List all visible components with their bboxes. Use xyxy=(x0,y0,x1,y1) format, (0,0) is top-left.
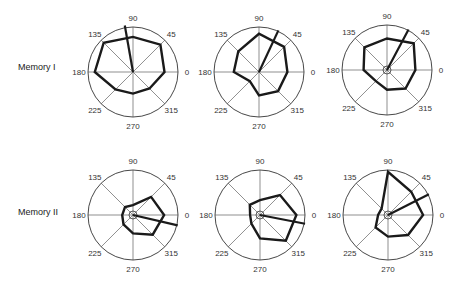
axis-label-315: 315 xyxy=(292,249,306,258)
tuning-polygon xyxy=(234,34,288,96)
polar-plots: 0459013518022527031504590135180225270315… xyxy=(0,0,456,284)
tuning-polygon xyxy=(376,172,424,237)
population-vector xyxy=(387,29,409,70)
axis-label-270: 270 xyxy=(253,265,267,274)
axis-label-90: 90 xyxy=(255,14,264,23)
axis-label-315: 315 xyxy=(165,106,179,115)
axis-label-225: 225 xyxy=(343,249,357,258)
axis-label-270: 270 xyxy=(380,120,394,129)
polar-plot-2: 04590135180225270315 xyxy=(198,14,315,131)
polar-plot-6: 04590135180225270315 xyxy=(327,157,444,274)
axis-label-45: 45 xyxy=(167,30,176,39)
axis-label-180: 180 xyxy=(198,68,212,77)
axis-label-315: 315 xyxy=(165,249,179,258)
axis-label-180: 180 xyxy=(327,211,341,220)
axis-label-90: 90 xyxy=(129,157,138,166)
axis-label-0: 0 xyxy=(185,68,190,77)
axis-label-0: 0 xyxy=(311,68,316,77)
axis-label-0: 0 xyxy=(312,211,317,220)
axis-label-135: 135 xyxy=(343,173,357,182)
polar-plot-3: 04590135180225270315 xyxy=(326,12,443,129)
axis-label-315: 315 xyxy=(419,104,433,113)
axis-label-180: 180 xyxy=(326,66,340,75)
axis-label-90: 90 xyxy=(256,157,265,166)
axis-label-45: 45 xyxy=(294,173,303,182)
tuning-polygon xyxy=(122,197,164,235)
axis-label-45: 45 xyxy=(422,173,431,182)
polar-plot-1: 04590135180225270315 xyxy=(72,14,189,131)
axis-label-135: 135 xyxy=(215,173,229,182)
axis-label-225: 225 xyxy=(342,104,356,113)
tuning-polygon xyxy=(95,37,165,94)
axis-label-0: 0 xyxy=(185,211,190,220)
axis-label-315: 315 xyxy=(420,249,434,258)
axis-label-180: 180 xyxy=(199,211,213,220)
axis-label-0: 0 xyxy=(440,211,445,220)
polar-figure: Memory I Memory II 045901351802252703150… xyxy=(0,0,456,284)
axis-label-45: 45 xyxy=(167,173,176,182)
axis-label-90: 90 xyxy=(384,157,393,166)
axis-label-270: 270 xyxy=(126,122,140,131)
axis-label-225: 225 xyxy=(214,106,228,115)
population-vector xyxy=(133,215,178,225)
axis-label-225: 225 xyxy=(215,249,229,258)
axis-label-180: 180 xyxy=(72,211,86,220)
axis-label-45: 45 xyxy=(421,28,430,37)
axis-label-90: 90 xyxy=(129,14,138,23)
axis-label-135: 135 xyxy=(214,30,228,39)
axis-label-135: 135 xyxy=(88,30,102,39)
axis-label-270: 270 xyxy=(381,265,395,274)
axis-label-0: 0 xyxy=(439,66,444,75)
axis-label-180: 180 xyxy=(72,68,86,77)
population-vector xyxy=(260,215,305,224)
axis-label-135: 135 xyxy=(342,28,356,37)
axis-label-135: 135 xyxy=(88,173,102,182)
axis-label-90: 90 xyxy=(383,12,392,21)
axis-label-315: 315 xyxy=(291,106,305,115)
axis-label-225: 225 xyxy=(88,106,102,115)
axis-label-270: 270 xyxy=(126,265,140,274)
polar-plot-5: 04590135180225270315 xyxy=(199,157,316,274)
axis-label-270: 270 xyxy=(252,122,266,131)
axis-label-45: 45 xyxy=(293,30,302,39)
polar-plot-4: 04590135180225270315 xyxy=(72,157,189,274)
axis-label-225: 225 xyxy=(88,249,102,258)
